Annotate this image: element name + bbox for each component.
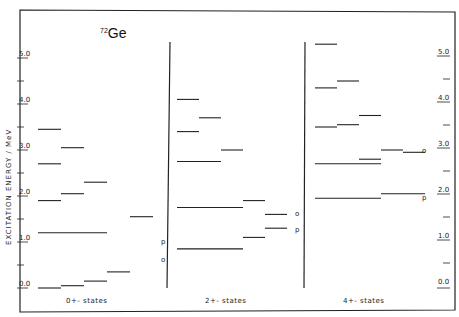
level-annotation: o	[422, 147, 426, 155]
y-tick-label: 1.0	[19, 234, 30, 242]
y-tick-label: 3.0	[19, 142, 30, 150]
y-tick-label-right: 3.0	[438, 140, 449, 148]
panel-label: 2+- states	[205, 297, 246, 305]
y-tick-label: 4.0	[19, 96, 30, 104]
level-annotation: p	[422, 194, 427, 202]
y-tick-label: 0.0	[19, 280, 30, 288]
y-axis-label: EXCITATION ENERGY / MeV	[5, 129, 13, 245]
level-annotation: o	[161, 256, 165, 264]
y-tick-label-right: 2.0	[438, 186, 449, 194]
y-tick-label-right: 1.0	[438, 232, 449, 240]
panel-label: 4+- states	[343, 297, 384, 305]
y-tick-label-right: 5.0	[438, 48, 449, 56]
level-annotation: p	[295, 226, 300, 234]
chart-canvas: 0.00.01.01.02.02.03.03.04.04.05.05.0EXCI…	[0, 0, 459, 317]
level-diagram: 0.00.01.01.02.02.03.03.04.04.05.05.0EXCI…	[0, 0, 459, 317]
y-tick-label: 5.0	[19, 50, 30, 58]
y-tick-label-right: 4.0	[438, 94, 449, 102]
y-tick-label: 2.0	[19, 188, 30, 196]
y-tick-label-right: 0.0	[438, 278, 449, 286]
plot-frame	[20, 10, 455, 312]
level-annotation: p	[161, 238, 166, 246]
level-annotation: o	[295, 210, 299, 218]
panel-label: 0+- states	[66, 297, 107, 305]
chart-title: 72Ge	[100, 25, 127, 41]
panel-divider	[304, 42, 305, 288]
panel-divider	[167, 42, 170, 288]
